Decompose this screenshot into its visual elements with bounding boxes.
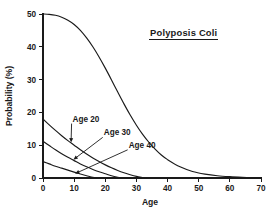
- y-tick-label: 30: [27, 76, 37, 85]
- x-tick-label: 50: [194, 184, 204, 193]
- x-tick-label: 30: [132, 184, 142, 193]
- annotation-arrow-head: [73, 155, 78, 159]
- x-tick-label: 40: [163, 184, 173, 193]
- series-annotation-label: Age 20: [73, 115, 100, 124]
- y-axis-ticks: 01020304050: [27, 10, 43, 183]
- series-annotation-label: Age 30: [104, 128, 131, 137]
- x-tick-label: 10: [70, 184, 80, 193]
- chart-title-group: Polyposis Coli: [149, 27, 218, 40]
- y-axis-title: Probability (%): [4, 66, 14, 126]
- series-annotation-label: Age 40: [129, 141, 156, 150]
- x-tick-label: 60: [225, 184, 235, 193]
- x-axis-ticks: 010203040506070: [41, 178, 266, 193]
- chart-plot-area: 01020304050 010203040506070 Age 20Age 30…: [0, 0, 275, 219]
- data-curve: [43, 162, 96, 178]
- y-tick-label: 10: [27, 141, 37, 150]
- y-tick-label: 0: [31, 174, 36, 183]
- y-tick-label: 50: [27, 10, 37, 19]
- polyposis-coli-chart-figure: 01020304050 010203040506070 Age 20Age 30…: [0, 0, 275, 219]
- data-curves-group: [43, 14, 261, 178]
- data-curve: [43, 141, 121, 178]
- data-curve: [43, 14, 261, 178]
- chart-title: Polyposis Coli: [150, 27, 217, 38]
- y-tick-label: 40: [27, 43, 37, 52]
- x-tick-label: 20: [101, 184, 111, 193]
- y-tick-label: 20: [27, 108, 37, 117]
- x-tick-label: 0: [41, 184, 46, 193]
- x-axis-title: Age: [142, 197, 158, 207]
- annotation-leader-line: [76, 137, 103, 157]
- x-tick-label: 70: [256, 184, 266, 193]
